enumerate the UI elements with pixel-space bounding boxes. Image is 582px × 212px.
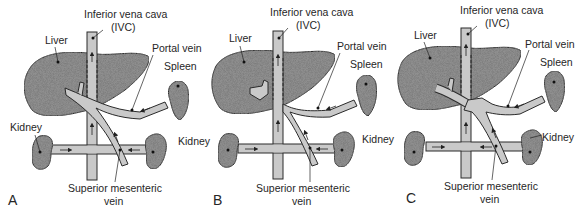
renal-veins (426, 142, 526, 151)
label-spleen: Spleen (350, 58, 383, 70)
spleen-shape (357, 75, 377, 116)
label-smv-line2: vein (104, 195, 123, 207)
panel-label-a: A (8, 192, 17, 208)
kidney-right-shape (333, 132, 354, 167)
panel-a-illustration (0, 0, 194, 212)
ivc-vessel (273, 31, 283, 179)
kidney-left-shape (32, 136, 53, 170)
label-liver: Liver (414, 29, 437, 41)
kidney-right-shape (521, 130, 542, 165)
label-portal-vein: Portal vein (525, 38, 575, 50)
panel-c: Inferior vena cava (IVC) Liver Portal ve… (382, 0, 576, 212)
panel-b-illustration (190, 0, 384, 212)
panel-b: Inferior vena cava (IVC) Liver Portal ve… (190, 0, 384, 212)
label-ivc: Inferior vena cava (84, 8, 167, 20)
label-ivc-abbr: (IVC) (111, 21, 136, 33)
label-smv-line1: Superior mesenteric (256, 182, 350, 194)
label-portal-vein: Portal vein (337, 40, 387, 52)
renal-veins (48, 145, 148, 154)
label-ivc: Inferior vena cava (270, 6, 353, 18)
label-kidney-right: Kidney (542, 131, 574, 143)
renal-veins (238, 144, 338, 153)
label-ivc-abbr: (IVC) (296, 19, 321, 31)
label-smv-line1: Superior mesenteric (68, 182, 162, 194)
label-liver: Liver (229, 32, 252, 44)
kidney-right-shape (145, 134, 166, 169)
panel-label-c: C (406, 190, 416, 206)
label-smv-line2: vein (480, 193, 499, 205)
kidney-left-shape (404, 132, 425, 166)
spleen-shape (545, 71, 565, 112)
label-spleen: Spleen (540, 56, 573, 68)
label-ivc: Inferior vena cava (460, 4, 543, 16)
label-smv-line2: vein (292, 195, 311, 207)
label-kidney-left: Kidney (10, 121, 42, 133)
label-liver: Liver (45, 34, 68, 46)
label-smv-line1: Superior mesenteric (444, 180, 538, 192)
label-ivc-abbr: (IVC) (485, 17, 510, 29)
panel-a: Inferior vena cava (IVC) Liver Portal ve… (0, 0, 194, 212)
panel-label-b: B (213, 192, 222, 208)
